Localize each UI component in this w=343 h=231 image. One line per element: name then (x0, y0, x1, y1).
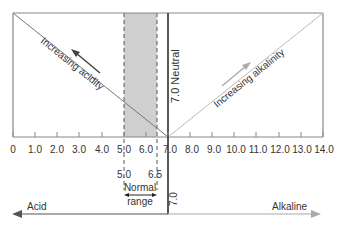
axis-tick-labels: 0 1.0 2.0 3.0 4.0 5.0 6.0 7.0 8.0 9.0 10… (10, 144, 334, 155)
svg-text:7.0: 7.0 (163, 144, 177, 155)
neutral-label: 7.0 Neutral (169, 49, 181, 103)
svg-text:2.0: 2.0 (50, 144, 64, 155)
svg-text:8.0: 8.0 (185, 144, 199, 155)
normal-range-high: 6.5 (148, 169, 162, 180)
svg-text:12.0: 12.0 (270, 144, 290, 155)
svg-text:9.0: 9.0 (207, 144, 221, 155)
normal-range-subtitle: range (127, 196, 153, 207)
normal-range-band (124, 13, 157, 137)
svg-text:10.0: 10.0 (226, 144, 246, 155)
svg-text:13.0: 13.0 (292, 144, 312, 155)
neutral-bottom-label: 7.0 (168, 192, 179, 206)
svg-text:14.0: 14.0 (314, 144, 334, 155)
normal-range-low: 5.0 (117, 169, 131, 180)
svg-text:5.0: 5.0 (117, 144, 131, 155)
alkalinity-label: Increasing alkalinity (211, 46, 286, 109)
ph-scale-diagram: 0 1.0 2.0 3.0 4.0 5.0 6.0 7.0 8.0 9.0 10… (0, 0, 343, 231)
svg-text:1.0: 1.0 (28, 144, 42, 155)
acid-label: Acid (27, 201, 46, 212)
svg-text:0: 0 (10, 144, 16, 155)
svg-text:3.0: 3.0 (72, 144, 86, 155)
svg-text:6.0: 6.0 (139, 144, 153, 155)
svg-text:11.0: 11.0 (249, 144, 268, 155)
acidity-label: Increasing acidity (39, 35, 106, 92)
normal-range-title: Normal (124, 182, 156, 193)
alkaline-label: Alkaline (272, 201, 307, 212)
svg-text:4.0: 4.0 (95, 144, 109, 155)
